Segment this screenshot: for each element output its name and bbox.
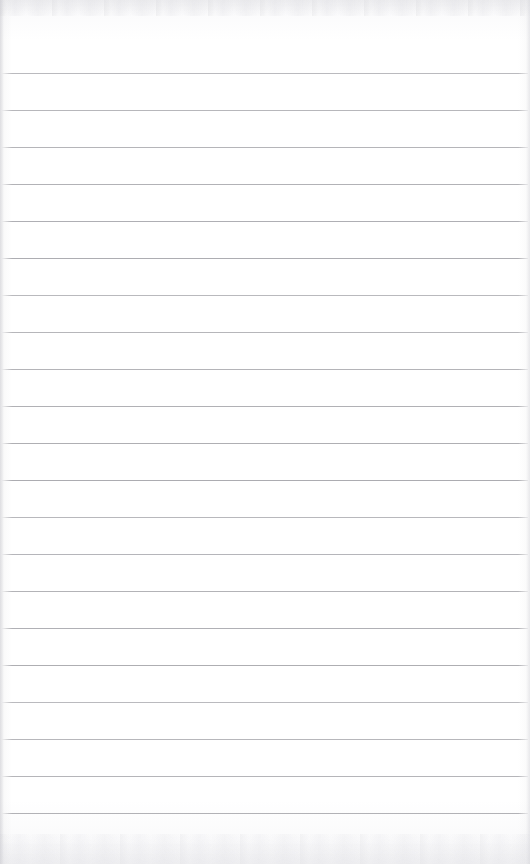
rule-line [2, 443, 528, 444]
rule-line [2, 628, 528, 629]
rule-line [2, 554, 528, 555]
scan-noise-band-bottom [0, 834, 530, 864]
rule-line [2, 295, 528, 296]
scanned-notepad-page [0, 0, 530, 864]
rule-line [2, 776, 528, 777]
rule-line [2, 147, 528, 148]
rule-line [2, 702, 528, 703]
rule-line [2, 517, 528, 518]
rule-line [2, 184, 528, 185]
rule-line [2, 480, 528, 481]
rule-lines-layer [0, 0, 530, 864]
rule-line [2, 258, 528, 259]
scan-edge-shadow-right [526, 0, 530, 864]
rule-line [2, 665, 528, 666]
rule-line [2, 73, 528, 74]
scan-noise-band-top [0, 0, 530, 16]
scan-edge-shadow-left [0, 0, 4, 864]
rule-line [2, 221, 528, 222]
rule-line [2, 332, 528, 333]
rule-line [2, 406, 528, 407]
rule-line [2, 110, 528, 111]
rule-line [2, 813, 528, 814]
rule-line [2, 591, 528, 592]
rule-line [2, 739, 528, 740]
rule-line [2, 369, 528, 370]
